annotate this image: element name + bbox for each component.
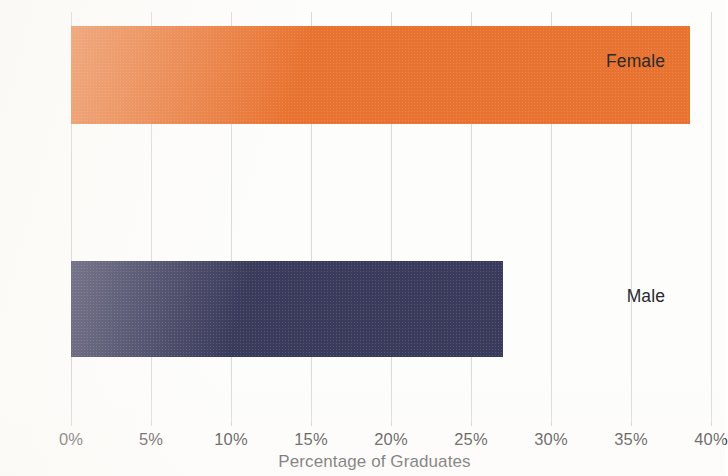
- x-tick-mark-15: [311, 422, 312, 426]
- x-tick-label-10: 10%: [214, 430, 248, 449]
- x-tick-mark-0: [71, 422, 72, 426]
- bar-female[interactable]: [71, 26, 690, 124]
- x-tick-mark-20: [391, 422, 392, 426]
- x-tick-mark-35: [631, 422, 632, 426]
- x-axis-title: Percentage of Graduates: [0, 452, 725, 472]
- x-tick-mark-10: [231, 422, 232, 426]
- x-axis-title-text: Percentage of Graduates: [278, 452, 470, 472]
- category-label-female: Female: [606, 51, 665, 72]
- x-tick-mark-25: [471, 422, 472, 426]
- x-tick-label-30: 30%: [534, 430, 568, 449]
- bar-female-fill: [71, 26, 690, 124]
- x-tick-label-15: 15%: [294, 430, 328, 449]
- x-tick-label-35: 35%: [614, 430, 648, 449]
- x-tick-label-25: 25%: [454, 430, 488, 449]
- x-tick-label-40: 40%: [694, 430, 728, 449]
- x-tick-mark-5: [151, 422, 152, 426]
- gridline-40: [711, 12, 712, 426]
- plot-area: [71, 12, 711, 426]
- category-label-male: Male: [627, 286, 665, 307]
- bar-male-fill: [71, 261, 503, 357]
- x-tick-mark-30: [551, 422, 552, 426]
- x-tick-mark-40: [711, 422, 712, 426]
- x-tick-label-0: 0%: [59, 430, 83, 449]
- x-tick-label-20: 20%: [374, 430, 408, 449]
- x-axis: 0%5%10%15%20%25%30%35%40%: [71, 426, 711, 454]
- x-tick-label-5: 5%: [139, 430, 163, 449]
- bar-male[interactable]: [71, 261, 503, 357]
